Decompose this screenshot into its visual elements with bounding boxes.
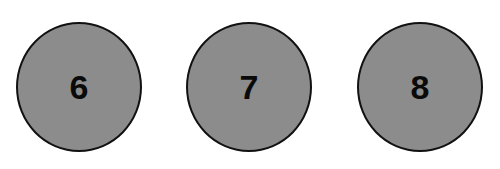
circle-7: 7 — [186, 22, 312, 152]
circle-label: 8 — [411, 70, 430, 104]
circle-label: 6 — [70, 70, 89, 104]
circle-8: 8 — [357, 22, 483, 152]
circle-6: 6 — [16, 22, 142, 152]
circle-label: 7 — [240, 70, 259, 104]
